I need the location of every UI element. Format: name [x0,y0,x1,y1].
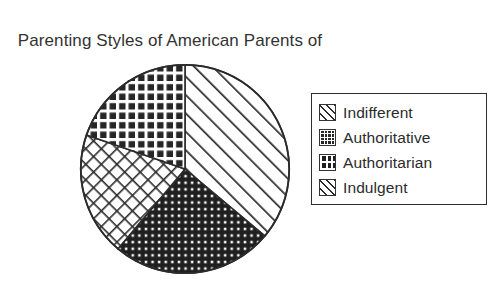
pie-slice-group [81,65,289,273]
legend-item-indulgent[interactable]: Indulgent [319,175,486,200]
diagonal-stripe-swatch-icon [319,104,336,121]
legend-label-authoritarian: Authoritarian [343,154,432,171]
legend-item-authoritarian[interactable]: Authoritarian [319,150,486,175]
pie-chart-svg [78,62,292,278]
legend-item-indifferent[interactable]: Indifferent [319,100,486,125]
chart-legend: Indifferent Authoritative Authoritarian … [311,93,487,205]
legend-label-indulgent: Indulgent [343,179,408,196]
pie-chart-figure: Parenting Styles of American Parents of … [0,0,501,305]
legend-label-authoritative: Authoritative [343,129,430,146]
chart-title-line-1: Parenting Styles of American Parents of [18,31,322,50]
pie-chart-plot-area [78,62,292,278]
legend-label-indifferent: Indifferent [343,104,413,121]
dark-checker-swatch-icon [319,129,336,146]
cross-hatch-swatch-icon [319,179,336,196]
legend-item-authoritative[interactable]: Authoritative [319,125,486,150]
dark-dot-swatch-icon [319,154,336,171]
